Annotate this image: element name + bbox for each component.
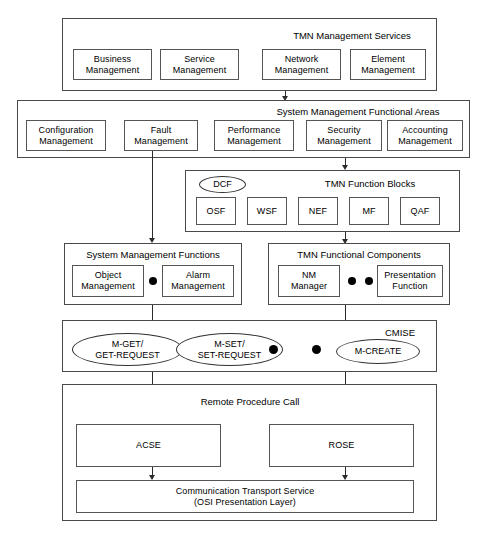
box-line2: Management — [317, 136, 371, 147]
box-line1: Communication Transport Service — [176, 486, 315, 497]
ellipse-line2: SET-REQUEST — [198, 350, 262, 361]
box-business-management[interactable]: Business Management — [73, 49, 152, 80]
box-network-management[interactable]: Network Management — [262, 49, 341, 80]
box-service-management[interactable]: Service Management — [160, 49, 239, 80]
box-alarm-management[interactable]: Alarm Management — [162, 265, 234, 297]
panel-title-tmn-management-services: TMN Management Services — [277, 30, 427, 41]
panel-title-remote-procedure-call: Remote Procedure Call — [180, 396, 320, 407]
badge-dcf[interactable]: DCF — [199, 176, 246, 193]
box-configuration-management[interactable]: Configuration Management — [26, 120, 106, 151]
badge-dcf-label: DCF — [213, 179, 232, 190]
box-line1: ACSE — [136, 440, 161, 451]
box-line1: Fault — [151, 125, 172, 136]
panel-title-cmise: CMISE — [370, 327, 430, 338]
box-line1: NEF — [309, 206, 327, 217]
ellipse-line1: M-GET/ — [112, 339, 144, 350]
box-mf[interactable]: MF — [349, 197, 389, 225]
ellipse-line2: GET-REQUEST — [95, 350, 160, 361]
box-line2: Manager — [291, 281, 327, 292]
separator-dot-tfc-2 — [365, 277, 373, 285]
box-fault-management[interactable]: Fault Management — [124, 120, 198, 151]
box-line2: Management — [86, 65, 140, 76]
panel-title-smfa: System Management Functional Areas — [258, 106, 458, 117]
box-line2: Management — [39, 136, 93, 147]
box-line2: Management — [227, 136, 281, 147]
box-rose[interactable]: ROSE — [269, 424, 414, 467]
box-performance-management[interactable]: Performance Management — [214, 120, 294, 151]
box-line1: WSF — [257, 206, 277, 217]
ellipse-m-set[interactable]: M-SET/ SET-REQUEST — [176, 333, 283, 366]
connector-smf-to-cmise — [152, 305, 153, 320]
box-accounting-management[interactable]: Accounting Management — [387, 120, 463, 151]
box-line2: Function — [392, 281, 427, 292]
box-line1: Element — [371, 54, 405, 65]
separator-dot-smf-1 — [149, 277, 157, 285]
panel-title-tmn-function-blocks: TMN Function Blocks — [300, 178, 440, 189]
connector-components-to-cmise — [345, 305, 346, 320]
ellipse-line1: M-CREATE — [355, 346, 401, 357]
box-presentation-function[interactable]: Presentation Function — [377, 265, 443, 297]
box-line1: OSF — [207, 206, 226, 217]
box-nef[interactable]: NEF — [298, 197, 338, 225]
box-line1: Security — [327, 125, 360, 136]
box-nm-manager[interactable]: NM Manager — [278, 265, 340, 297]
separator-dot-tfc-1 — [348, 277, 356, 285]
box-line1: Alarm — [186, 270, 210, 281]
box-line2: (OSI Presentation Layer) — [194, 497, 296, 508]
ellipse-m-create[interactable]: M-CREATE — [336, 339, 420, 364]
box-line1: Performance — [228, 125, 281, 136]
box-line2: Management — [361, 65, 415, 76]
box-line1: MF — [362, 206, 375, 217]
box-osf[interactable]: OSF — [196, 197, 236, 225]
separator-dot-cmise-1 — [269, 345, 278, 354]
box-line1: Object — [95, 270, 122, 281]
box-object-management[interactable]: Object Management — [72, 265, 144, 297]
box-line1: Presentation — [384, 270, 436, 281]
ellipse-line1: M-SET/ — [214, 339, 245, 350]
box-line2: Management — [134, 136, 188, 147]
box-line2: Management — [81, 281, 135, 292]
box-line1: ROSE — [329, 440, 355, 451]
box-qaf[interactable]: QAF — [400, 197, 440, 225]
box-line2: Management — [398, 136, 452, 147]
box-line2: Management — [173, 65, 227, 76]
box-communication-transport-service[interactable]: Communication Transport Service (OSI Pre… — [76, 480, 414, 513]
box-line1: Configuration — [39, 125, 94, 136]
box-wsf[interactable]: WSF — [247, 197, 287, 225]
box-security-management[interactable]: Security Management — [306, 120, 382, 151]
box-element-management[interactable]: Element Management — [350, 49, 426, 80]
box-line2: Management — [171, 281, 225, 292]
box-line1: Service — [184, 54, 215, 65]
box-line2: Management — [275, 65, 329, 76]
box-line1: NM — [302, 270, 316, 281]
box-line1: Network — [285, 54, 319, 65]
panel-title-tmn-functional-components: TMN Functional Components — [276, 249, 442, 260]
separator-dot-cmise-2 — [312, 345, 321, 354]
box-line1: QAF — [411, 206, 430, 217]
panel-title-system-management-functions: System Management Functions — [72, 249, 234, 260]
box-acse[interactable]: ACSE — [76, 424, 221, 467]
box-line1: Accounting — [402, 125, 448, 136]
box-line1: Business — [94, 54, 131, 65]
ellipse-m-get[interactable]: M-GET/ GET-REQUEST — [72, 333, 183, 366]
diagram-canvas: TMN Management Services Business Managem… — [0, 0, 484, 552]
connector-fault-to-smf — [152, 151, 153, 241]
